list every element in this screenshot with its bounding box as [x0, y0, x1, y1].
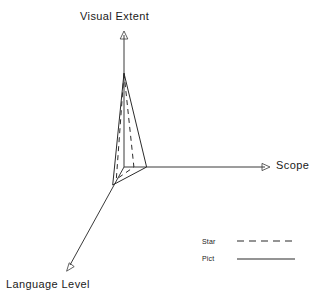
legend-swatch-star-slot — [236, 238, 296, 245]
radar-chart: Visual Extent Scope Language Level Star … — [0, 0, 319, 301]
legend-label-pict: Pict — [202, 255, 236, 262]
axis-label-visual-extent: Visual Extent — [80, 10, 149, 22]
axis-language-level — [67, 167, 124, 271]
arrowhead-language-level-icon — [67, 263, 75, 271]
axis-label-scope: Scope — [276, 159, 309, 171]
chart-legend: Star Pict — [202, 233, 296, 267]
legend-swatch-pict-slot — [236, 255, 296, 262]
axis-label-language-level: Language Level — [6, 278, 90, 290]
axis-line-language-level — [70, 167, 124, 265]
legend-item-star: Star — [202, 233, 296, 250]
legend-label-star: Star — [202, 238, 236, 245]
legend-item-pict: Pict — [202, 250, 296, 267]
